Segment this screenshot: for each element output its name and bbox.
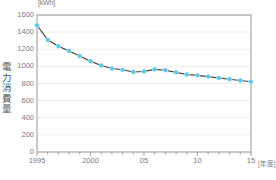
data-point-2002 (110, 66, 115, 71)
data-point-2012 (217, 76, 222, 81)
data-point-1997 (56, 44, 61, 49)
plot-area (0, 0, 276, 180)
data-point-1996 (45, 37, 50, 42)
data-point-2006 (152, 67, 157, 72)
data-point-2005 (142, 69, 147, 74)
data-point-2015 (249, 79, 254, 84)
data-point-2014 (238, 78, 243, 83)
data-point-2004 (131, 70, 136, 75)
data-point-2007 (163, 68, 168, 73)
data-point-2003 (120, 67, 125, 72)
data-point-2009 (184, 72, 189, 77)
data-point-2000 (88, 59, 93, 64)
data-point-2001 (99, 63, 104, 68)
data-point-1998 (67, 49, 72, 54)
data-point-2013 (227, 77, 232, 82)
electricity-consumption-chart: [kWh] 電 力 消 費 量 020040060080010001200140… (0, 0, 276, 180)
data-point-2011 (206, 74, 211, 79)
data-point-1999 (77, 54, 82, 59)
data-point-1995 (35, 23, 40, 28)
data-point-2010 (195, 73, 200, 78)
data-point-2008 (174, 70, 179, 75)
